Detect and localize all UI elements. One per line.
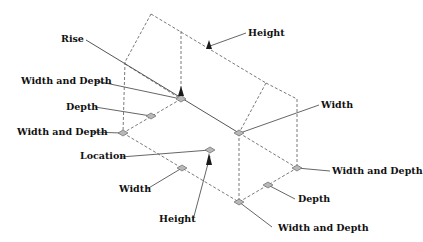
dashed-outline [123, 14, 297, 202]
label-width-and-depth-upper-left: Width and Depth [21, 75, 112, 86]
label-width-and-depth-bottom: Width and Depth [278, 222, 369, 233]
label-location: Location [80, 150, 126, 161]
leader-lines [91, 33, 330, 227]
arrow-grips [178, 40, 212, 165]
height-arrow-bottom-icon [206, 153, 212, 165]
label-rise: Rise [61, 33, 84, 44]
label-depth-left: Depth [66, 101, 98, 112]
label-width-and-depth-right: Width and Depth [332, 165, 423, 176]
label-width-bottom-left: Width [119, 183, 151, 194]
label-depth-right: Depth [298, 193, 330, 204]
label-width-right: Width [321, 99, 353, 110]
grip-location [205, 147, 215, 153]
rise-line [86, 40, 239, 133]
label-height-bottom: Height [159, 213, 196, 224]
grip-width-depth-right [292, 165, 302, 171]
height-arrow-top-icon [206, 40, 212, 49]
rise-arrow-icon [178, 86, 184, 96]
grip-width-depth-left [118, 130, 128, 136]
grip-depth-left [146, 113, 156, 119]
label-height-top: Height [248, 27, 285, 38]
label-width-and-depth-left: Width and Depth [17, 126, 108, 137]
